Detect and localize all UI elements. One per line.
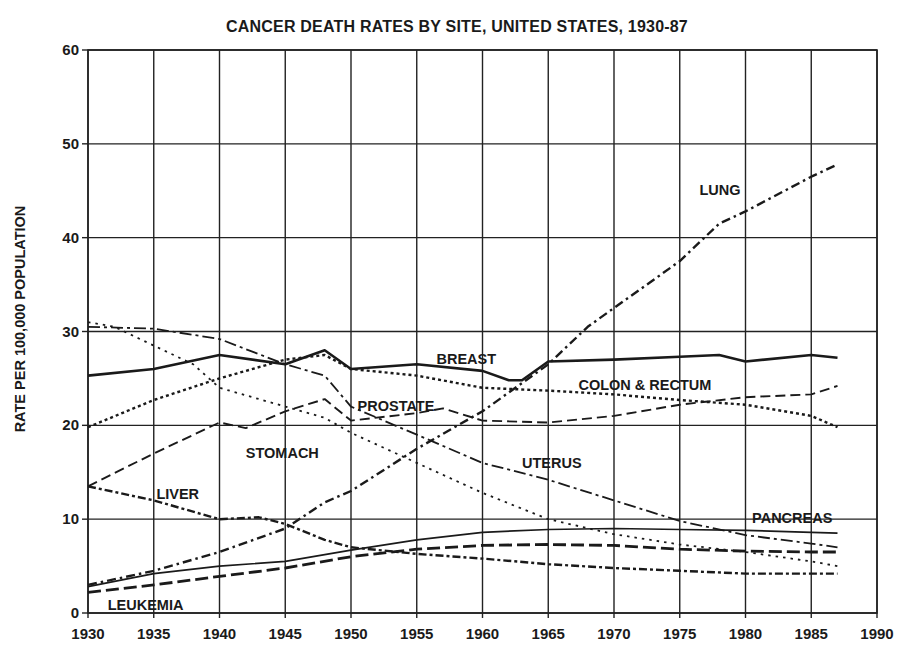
x-tick-label: 1945 [269,625,302,642]
x-tick-label: 1980 [729,625,762,642]
series-label-colon-rectum: COLON & RECTUM [578,377,711,393]
x-axis-ticks: 1930193519401945195019551960196519701975… [71,613,893,642]
y-tick-label: 10 [62,510,79,527]
x-tick-label: 1930 [71,625,104,642]
y-tick-label: 30 [62,323,79,340]
line-chart: 1930193519401945195019551960196519701975… [0,0,914,661]
series-labels: LUNGBREASTCOLON & RECTUMPROSTATESTOMACHU… [108,182,833,613]
x-tick-label: 1965 [532,625,565,642]
x-tick-label: 1975 [663,625,696,642]
series-line-prostate [88,386,838,486]
x-tick-label: 1955 [400,625,433,642]
x-tick-label: 1970 [597,625,630,642]
series-label-leukemia: LEUKEMIA [108,597,184,613]
y-tick-label: 0 [71,604,79,621]
y-tick-label: 60 [62,41,79,58]
series-line-lung [88,165,838,585]
y-tick-label: 40 [62,229,79,246]
data-series [88,165,838,593]
series-label-liver: LIVER [156,486,199,502]
x-tick-label: 1940 [203,625,236,642]
x-tick-label: 1950 [334,625,367,642]
series-label-lung: LUNG [699,182,740,198]
y-tick-label: 50 [62,135,79,152]
series-label-stomach: STOMACH [246,445,319,461]
series-label-breast: BREAST [436,351,496,367]
series-label-pancreas: PANCREAS [752,510,833,526]
y-axis-ticks: 0102030405060 [62,41,88,621]
x-tick-label: 1960 [466,625,499,642]
series-label-prostate: PROSTATE [358,398,435,414]
x-tick-label: 1985 [795,625,828,642]
x-tick-label: 1935 [137,625,170,642]
series-label-uterus: UTERUS [522,455,582,471]
grid-lines [88,50,877,613]
y-tick-label: 20 [62,416,79,433]
x-tick-label: 1990 [860,625,893,642]
